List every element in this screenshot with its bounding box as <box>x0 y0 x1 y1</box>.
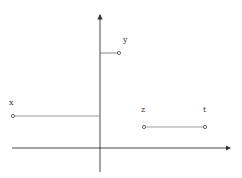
point-x <box>11 114 14 117</box>
point-y <box>117 51 120 54</box>
label-x: x <box>9 99 14 107</box>
label-z: z <box>141 106 145 114</box>
point-t <box>203 125 206 128</box>
point-z <box>142 125 145 128</box>
diagram-canvas <box>0 0 242 178</box>
label-t: t <box>203 106 206 114</box>
label-y: y <box>123 36 128 44</box>
